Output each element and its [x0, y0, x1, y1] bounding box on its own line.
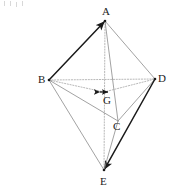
- edge-be: [49, 80, 104, 170]
- vertex-marker-b: [48, 79, 51, 82]
- figure-canvas: [0, 0, 175, 195]
- edge-cd: [118, 79, 155, 121]
- vertex-label-a: A: [102, 6, 110, 17]
- vertex-marker-a: [104, 20, 107, 23]
- edge-gb: [49, 80, 104, 92]
- scan-speck-3: [16, 2, 17, 7]
- vertex-marker-e: [103, 169, 106, 172]
- edge-gd: [104, 79, 155, 92]
- vertex-label-d: D: [158, 73, 166, 84]
- scan-speck-2: [10, 1, 11, 6]
- edge-ba: [49, 22, 104, 80]
- vertex-marker-d: [154, 78, 157, 81]
- vertex-label-g: G: [103, 95, 111, 106]
- vertex-label-b: B: [38, 74, 45, 85]
- geometry-figure: ABDCEG: [0, 0, 175, 195]
- edge-bd: [49, 79, 155, 80]
- scan-speck-1: [4, 1, 5, 6]
- scan-speck-4: [22, 1, 23, 6]
- vertex-label-c: C: [113, 121, 120, 132]
- edge-ac: [105, 21, 118, 121]
- edge-ad: [105, 21, 155, 79]
- vertex-label-e: E: [100, 176, 107, 187]
- edge-layer: [49, 21, 155, 170]
